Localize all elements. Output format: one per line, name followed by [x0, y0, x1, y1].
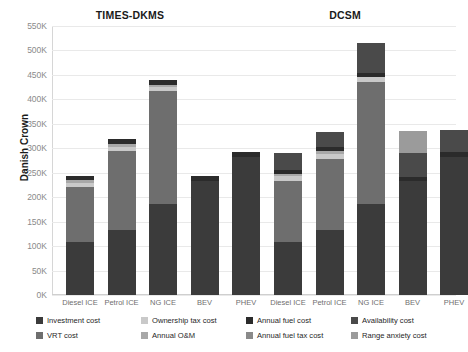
y-axis-tick-label: 100K — [7, 241, 47, 251]
legend-item[interactable]: Annual fuel tax cost — [246, 331, 351, 340]
bar-segment — [316, 132, 344, 147]
bar-segment — [149, 91, 177, 204]
bar-dcsm-bev[interactable] — [399, 26, 427, 295]
legend-item[interactable]: Ownership tax cost — [141, 316, 246, 325]
bar-segment — [66, 187, 94, 242]
y-axis-tick-label: 550K — [7, 21, 47, 31]
y-axis-tick-label: 300K — [7, 143, 47, 153]
bar-segment — [357, 82, 385, 204]
y-axis-tick-label: 400K — [7, 94, 47, 104]
bar-segment — [191, 181, 219, 295]
y-axis-tick-label: 500K — [7, 45, 47, 55]
bar-dcsm-ng-ice[interactable] — [357, 26, 385, 295]
legend-item[interactable]: Investment cost — [36, 316, 141, 325]
chart-legend: Investment costOwnership tax costAnnual … — [36, 313, 456, 343]
legend-swatch-icon — [351, 332, 358, 339]
bar-segment — [274, 242, 302, 295]
legend-swatch-icon — [351, 317, 358, 324]
bar-dcsm-diesel-ice[interactable] — [274, 26, 302, 295]
bar-segment — [274, 181, 302, 242]
bar-segment — [66, 242, 94, 295]
y-axis-tick-label: 250K — [7, 168, 47, 178]
legend-item[interactable]: Range anxiety cost — [351, 331, 456, 340]
legend-label: Annual O&M — [152, 331, 195, 340]
stacked-bar — [274, 153, 302, 295]
x-axis-tick-label: BEV — [197, 298, 212, 307]
bar-segment — [357, 204, 385, 295]
legend-item[interactable]: VRT cost — [36, 331, 141, 340]
bar-segment — [149, 204, 177, 295]
bar-segment — [399, 131, 427, 153]
legend-swatch-icon — [141, 317, 148, 324]
bar-segment — [357, 43, 385, 74]
legend-item[interactable]: Annual O&M — [141, 331, 246, 340]
legend-swatch-icon — [141, 332, 148, 339]
x-axis-tick-label: PHEV — [444, 298, 464, 307]
legend-label: Ownership tax cost — [152, 316, 217, 325]
legend-label: Availability cost — [362, 316, 414, 325]
legend-swatch-icon — [36, 332, 43, 339]
bar-segment — [440, 157, 468, 295]
plot-area: 0K50K100K150K200K250K300K350K400K450K500… — [52, 26, 456, 295]
bar-times-dkms-petrol-ice[interactable] — [108, 26, 136, 295]
bar-dcsm-petrol-ice[interactable] — [316, 26, 344, 295]
bar-times-dkms-ng-ice[interactable] — [149, 26, 177, 295]
legend-swatch-icon — [246, 317, 253, 324]
stacked-bar — [316, 132, 344, 295]
group-title-dcsm: DCSM — [300, 9, 390, 21]
bar-segment — [316, 159, 344, 230]
legend-label: VRT cost — [47, 331, 78, 340]
bar-dcsm-phev[interactable] — [440, 26, 468, 295]
x-axis-tick-label: NG ICE — [358, 298, 384, 307]
bar-segment — [108, 230, 136, 295]
stacked-bar — [232, 152, 260, 295]
bar-times-dkms-phev[interactable] — [232, 26, 260, 295]
bar-times-dkms-diesel-ice[interactable] — [66, 26, 94, 295]
y-axis-tick-label: 450K — [7, 70, 47, 80]
legend-item[interactable]: Annual fuel cost — [246, 316, 351, 325]
stacked-bar — [66, 176, 94, 295]
x-axis-tick-label: BEV — [405, 298, 420, 307]
bar-segment — [399, 153, 427, 176]
legend-label: Range anxiety cost — [362, 331, 427, 340]
stacked-bar — [399, 131, 427, 295]
y-axis-tick-label: 200K — [7, 192, 47, 202]
x-axis-tick-label: PHEV — [236, 298, 256, 307]
group-title-times-dkms: TIMES-DKMS — [75, 9, 185, 21]
legend-swatch-icon — [36, 317, 43, 324]
x-axis-tick-label: Diesel ICE — [270, 298, 305, 307]
y-axis-tick-label: 50K — [7, 266, 47, 276]
x-axis-tick-label: Petrol ICE — [104, 298, 138, 307]
bar-segment — [108, 151, 136, 230]
bar-segment — [274, 153, 302, 170]
y-axis-tick-label: 150K — [7, 217, 47, 227]
stacked-bar — [357, 43, 385, 295]
y-axis-tick-label: 350K — [7, 119, 47, 129]
gridline: 0K — [52, 295, 456, 296]
y-axis-tick-label: 0K — [7, 290, 47, 300]
legend-swatch-icon — [246, 332, 253, 339]
stacked-bar — [149, 80, 177, 295]
bar-segment — [316, 230, 344, 295]
x-axis-tick-label: NG ICE — [150, 298, 176, 307]
legend-label: Annual fuel tax cost — [257, 331, 323, 340]
y-axis-line — [52, 26, 53, 295]
bar-times-dkms-bev[interactable] — [191, 26, 219, 295]
legend-label: Annual fuel cost — [257, 316, 311, 325]
stacked-bar — [191, 176, 219, 295]
x-axis-tick-label: Petrol ICE — [312, 298, 346, 307]
bar-segment — [399, 181, 427, 295]
bar-segment — [440, 130, 468, 152]
legend-label: Investment cost — [47, 316, 100, 325]
legend-item[interactable]: Availability cost — [351, 316, 456, 325]
stacked-bar — [440, 130, 468, 295]
stacked-bar — [108, 139, 136, 295]
x-axis-tick-label: Diesel ICE — [62, 298, 97, 307]
bar-segment — [232, 157, 260, 295]
